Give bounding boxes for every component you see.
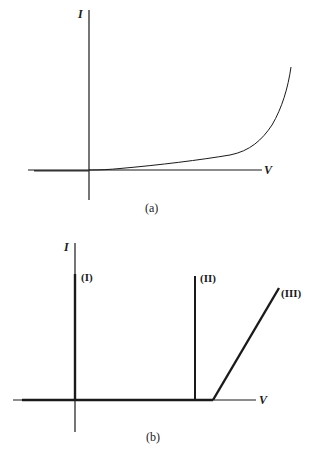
panel-a-iv-curve (89, 67, 291, 170)
panel-b-series-I-label: (I) (81, 271, 93, 284)
panel-b-caption: (b) (146, 430, 160, 444)
figure: I V (a) I V (I) (II) (III) (b) (0, 0, 316, 455)
panel-b-series-III (213, 288, 279, 400)
panel-b-x-axis-label: V (259, 393, 268, 407)
panel-b: I V (I) (II) (III) (b) (13, 240, 302, 444)
panel-a-y-axis-label: I (77, 7, 84, 21)
panel-a-x-axis-label: V (264, 163, 273, 177)
panel-a-caption: (a) (145, 201, 158, 215)
panel-a: I V (a) (28, 7, 291, 215)
panel-b-y-axis-label: I (63, 240, 70, 254)
panel-b-series-II-label: (II) (200, 272, 216, 285)
panel-b-series-III-label: (III) (281, 287, 302, 300)
